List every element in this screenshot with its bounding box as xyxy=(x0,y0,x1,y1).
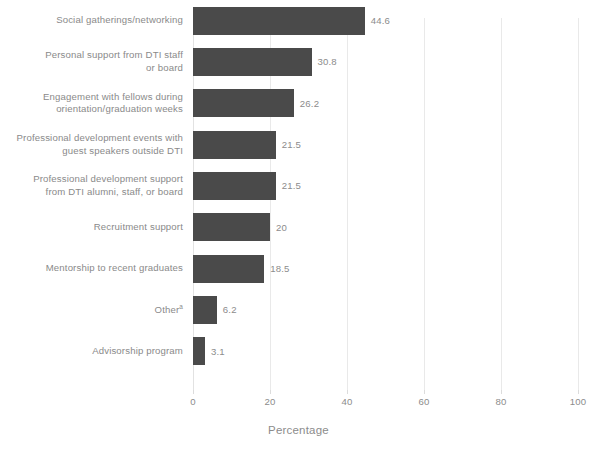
bar-row: Mentorship to recent graduates18.5 xyxy=(0,248,597,289)
bar-value-label: 3.1 xyxy=(211,346,225,357)
bar-value-label: 20 xyxy=(276,222,287,233)
x-tick-label: 80 xyxy=(495,396,506,407)
x-axis: 020406080100 xyxy=(193,390,578,414)
bar-with-value: 21.5 xyxy=(193,131,301,159)
x-tick-mark xyxy=(193,390,194,394)
bar-row: Personal support from DTI staff or board… xyxy=(0,41,597,82)
bar-with-value: 26.2 xyxy=(193,89,319,117)
category-label: Recruitment support xyxy=(0,221,183,234)
bar xyxy=(193,89,294,117)
bar-row: Engagement with fellows during orientati… xyxy=(0,83,597,124)
category-label: Mentorship to recent graduates xyxy=(0,262,183,275)
x-tick-mark xyxy=(347,390,348,394)
bar xyxy=(193,213,270,241)
bar-row: Advisorship program3.1 xyxy=(0,331,597,372)
x-tick-mark xyxy=(424,390,425,394)
x-tick-mark xyxy=(578,390,579,394)
x-tick-label: 60 xyxy=(418,396,429,407)
bar-with-value: 21.5 xyxy=(193,172,301,200)
bar-value-label: 6.2 xyxy=(223,304,237,315)
bar-with-value: 18.5 xyxy=(193,255,290,283)
category-label: Advisorship program xyxy=(0,345,183,358)
bar xyxy=(193,296,217,324)
x-tick-label: 20 xyxy=(264,396,275,407)
bar-value-label: 18.5 xyxy=(270,263,289,274)
bar-row: Othera6.2 xyxy=(0,289,597,330)
category-label: Personal support from DTI staff or board xyxy=(0,49,183,74)
x-tick-label: 100 xyxy=(570,396,587,407)
footnote-marker: a xyxy=(179,303,183,310)
bar-with-value: 20 xyxy=(193,213,287,241)
bar xyxy=(193,131,276,159)
bar-with-value: 44.6 xyxy=(193,7,390,35)
category-label: Social gatherings/networking xyxy=(0,14,183,27)
category-label: Othera xyxy=(0,304,183,317)
bar-value-label: 21.5 xyxy=(282,139,301,150)
x-tick-label: 0 xyxy=(190,396,196,407)
bar-rows: Social gatherings/networking44.6Personal… xyxy=(0,0,597,372)
bar xyxy=(193,7,365,35)
bar-row: Professional development support from DT… xyxy=(0,165,597,206)
bar-value-label: 44.6 xyxy=(371,15,390,26)
bar xyxy=(193,48,312,76)
bar-value-label: 30.8 xyxy=(318,56,337,67)
bar-with-value: 30.8 xyxy=(193,48,337,76)
category-label: Professional development events with gue… xyxy=(0,132,183,157)
x-tick-label: 40 xyxy=(341,396,352,407)
bar xyxy=(193,172,276,200)
bar-row: Social gatherings/networking44.6 xyxy=(0,0,597,41)
bar-with-value: 6.2 xyxy=(193,296,237,324)
x-tick-mark xyxy=(270,390,271,394)
bar-row: Recruitment support20 xyxy=(0,207,597,248)
x-axis-title: Percentage xyxy=(0,424,597,436)
bar-row: Professional development events with gue… xyxy=(0,124,597,165)
x-tick-mark xyxy=(501,390,502,394)
bar xyxy=(193,255,264,283)
category-label: Professional development support from DT… xyxy=(0,173,183,198)
bar-chart: Social gatherings/networking44.6Personal… xyxy=(0,0,597,451)
category-label: Engagement with fellows during orientati… xyxy=(0,91,183,116)
bar-value-label: 26.2 xyxy=(300,98,319,109)
bar-with-value: 3.1 xyxy=(193,337,225,365)
bar xyxy=(193,337,205,365)
bar-value-label: 21.5 xyxy=(282,180,301,191)
